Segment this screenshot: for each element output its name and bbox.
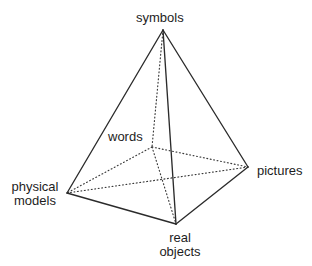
edge-symbols-physical-models [67,30,163,193]
vertex-label-symbols: symbols [136,11,184,25]
vertex-label-words: words [108,130,143,144]
vertex-label-real-objects-line1: real [169,230,191,245]
edge-physical-models-real-objects [67,193,176,224]
edge-symbols-pictures [163,30,248,167]
vertex-label-real-objects: real objects [148,231,212,258]
vertex-label-pictures-text: pictures [257,163,303,178]
hidden-edges-group [67,30,248,224]
tetrahedron-diagram [0,0,312,266]
vertex-label-physical-models: physical models [4,180,66,207]
edge-symbols-real-objects [163,30,176,224]
edge-words-real-objects [152,147,176,224]
vertex-label-physical-models-line1: physical [12,179,59,194]
edge-words-pictures [152,147,248,167]
visible-edges-group [67,30,248,224]
edge-symbols-words [152,30,163,147]
vertex-label-symbols-text: symbols [136,10,184,25]
vertex-label-real-objects-line2: objects [148,245,212,259]
vertex-label-words-text: words [108,129,143,144]
vertex-label-physical-models-line2: models [4,194,66,208]
edge-words-physical-models [67,147,152,193]
vertex-label-pictures: pictures [257,164,303,178]
figure-canvas: symbols words pictures physical models r… [0,0,312,266]
edge-real-objects-pictures [176,167,248,224]
